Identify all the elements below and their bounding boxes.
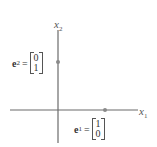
x1-axis-label: x1 [139,106,147,120]
e2-equals: = [22,58,28,69]
e2-component-2: 1 [34,63,39,73]
e1-subscript: 1 [78,125,82,133]
e1-equals: = [84,124,90,135]
x1-sub: 1 [144,112,148,120]
e1-matrix: 1 0 [92,118,105,140]
e2-subscript: 2 [16,59,20,67]
e1-label: e1 = 1 0 [74,118,105,140]
e2-label: e2 = 0 1 [12,52,43,74]
x2-axis-label: x2 [54,19,62,33]
e2-point [56,60,60,64]
x2-sub: 2 [59,25,63,33]
e2-matrix: 0 1 [30,52,43,74]
e1-point [103,108,107,112]
e1-component-2: 0 [96,129,101,139]
